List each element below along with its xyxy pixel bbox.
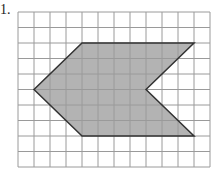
grid-diagram (0, 0, 213, 169)
grid-lines (18, 12, 210, 167)
